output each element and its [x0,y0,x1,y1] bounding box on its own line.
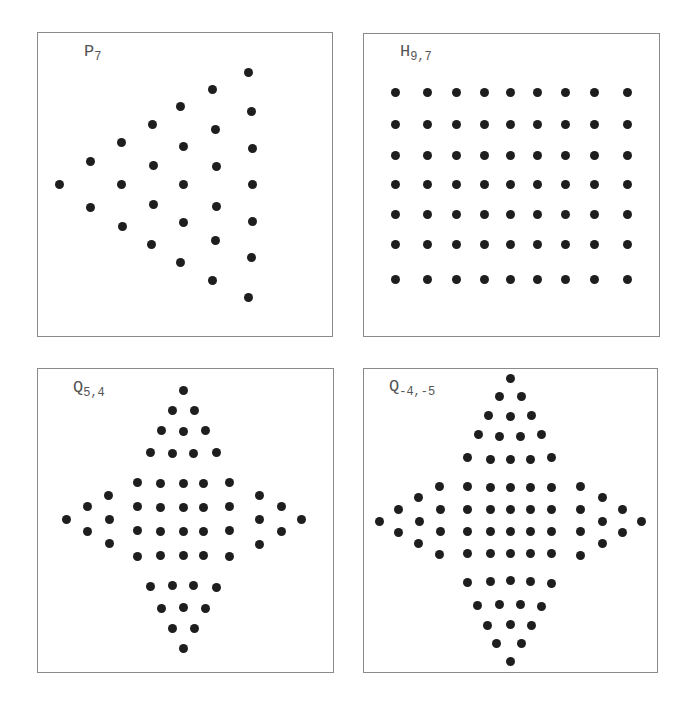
lattice-point [179,386,188,395]
lattice-point [637,517,646,526]
lattice-point [506,151,515,160]
lattice-point [561,88,570,97]
lattice-point [547,527,556,536]
lattice-point [212,202,221,211]
lattice-point [277,527,286,536]
lattice-point [495,432,504,441]
lattice-point [247,253,256,262]
lattice-point [189,449,198,458]
lattice-point [623,88,632,97]
lattice-point [133,552,142,561]
panel-label-main: H [400,42,410,61]
lattice-point [201,426,210,435]
lattice-point [391,210,400,219]
lattice-point [255,491,264,500]
lattice-point [527,621,536,630]
lattice-point [156,503,165,512]
lattice-point [561,240,570,249]
lattice-point [391,88,400,97]
lattice-point [526,549,535,558]
lattice-point [146,448,155,457]
lattice-point [55,180,64,189]
lattice-point [486,527,495,536]
lattice-point [561,151,570,160]
lattice-point [255,540,264,549]
lattice-point [179,644,188,653]
lattice-point [199,479,208,488]
panel-q54 [37,368,334,673]
lattice-point [199,551,208,560]
lattice-point [435,550,444,559]
lattice-point [208,85,217,94]
lattice-point [225,526,234,535]
lattice-point [423,210,432,219]
lattice-point [463,482,472,491]
lattice-point [486,455,495,464]
lattice-point [105,539,114,548]
lattice-point [506,620,515,629]
lattice-point [423,275,432,284]
lattice-point [623,180,632,189]
lattice-point [179,551,188,560]
lattice-point [179,527,188,536]
lattice-point [618,505,627,514]
lattice-point [506,88,515,97]
lattice-point [495,600,504,609]
lattice-point [492,639,501,648]
lattice-point [561,210,570,219]
lattice-point [133,526,142,535]
lattice-point [452,275,461,284]
lattice-point [452,151,461,160]
lattice-point [168,581,177,590]
lattice-point [590,120,599,129]
lattice-point [547,579,556,588]
lattice-point [146,582,155,591]
lattice-point [517,392,526,401]
lattice-point [598,517,607,526]
lattice-point [391,151,400,160]
lattice-point [179,427,188,436]
lattice-point [533,120,542,129]
lattice-point [480,275,489,284]
lattice-point [506,180,515,189]
panel-label-q-4-5: Q-4,-5 [389,377,435,399]
lattice-point [133,502,142,511]
lattice-point [537,602,546,611]
lattice-point [506,412,515,421]
lattice-point [248,217,257,226]
lattice-point [211,125,220,134]
lattice-point [506,527,515,536]
lattice-point [623,210,632,219]
lattice-point [506,657,515,666]
lattice-point [83,527,92,536]
panel-label-main: Q [389,377,399,396]
lattice-point [495,392,504,401]
lattice-point [576,505,585,514]
lattice-point [516,432,525,441]
lattice-point [618,528,627,537]
lattice-point [147,240,156,249]
lattice-point [156,479,165,488]
lattice-point [179,218,188,227]
lattice-point [435,482,444,491]
lattice-point [506,275,515,284]
lattice-point [623,151,632,160]
panel-label-main: P [84,42,94,61]
lattice-point [480,88,489,97]
lattice-point [480,120,489,129]
lattice-point [248,144,257,153]
lattice-point [463,453,472,462]
lattice-point [486,505,495,514]
lattice-point [598,493,607,502]
lattice-point [148,120,157,129]
lattice-point [189,581,198,590]
panel-label-subscript: 5,4 [83,386,105,400]
lattice-point [225,502,234,511]
lattice-point [211,236,220,245]
lattice-point [576,551,585,560]
lattice-point [375,517,384,526]
lattice-point [480,210,489,219]
lattice-point [623,275,632,284]
lattice-point [452,88,461,97]
lattice-point [506,120,515,129]
